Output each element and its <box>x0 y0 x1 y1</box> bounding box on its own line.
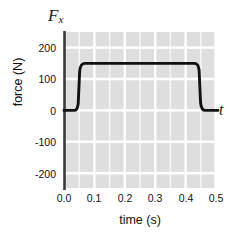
fx-axis-symbol: Fx <box>48 6 63 26</box>
y-axis-title: force (N) <box>11 17 25 147</box>
x-axis-title: time (s) <box>64 213 216 227</box>
fx-symbol-subscript: x <box>58 13 63 25</box>
x-tick-label-0.5: 0.5 <box>196 192 233 204</box>
t-axis-symbol: t <box>219 101 223 119</box>
force-vs-time-chart: Fx t 200 100 0 -100 -200 0.0 0.1 0.2 0.3… <box>0 0 233 239</box>
fx-symbol-main: F <box>48 6 58 25</box>
y-tick-label-neg200: -200 <box>16 168 56 180</box>
